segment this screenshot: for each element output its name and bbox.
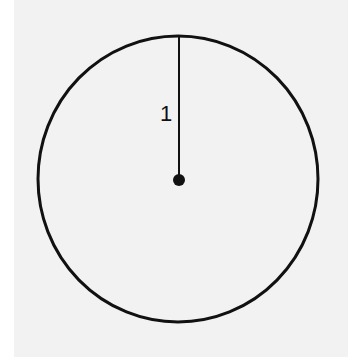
circle-diagram: 1 bbox=[0, 0, 348, 357]
radius-label: 1 bbox=[160, 101, 172, 126]
center-point bbox=[173, 174, 185, 186]
